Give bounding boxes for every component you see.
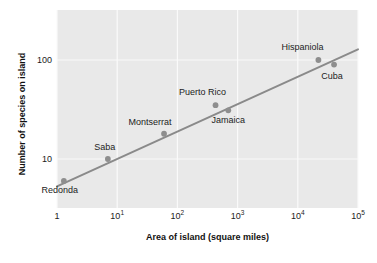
x-tick-exponent: 3 — [241, 209, 245, 216]
point-label-jamaica: Jamaica — [212, 115, 246, 125]
x-tick-base: 1 — [54, 211, 59, 221]
point-label-puerto-rico: Puerto Rico — [179, 87, 226, 97]
trend-line-segment — [57, 49, 358, 186]
x-tick-label-10: 101 — [110, 211, 124, 221]
x-tick-exponent: 2 — [181, 209, 185, 216]
x-tick-exponent: 1 — [120, 209, 124, 216]
x-tick-base: 10 — [231, 211, 241, 221]
data-point-montserrat — [161, 131, 167, 137]
x-tick-exponent: 4 — [301, 209, 305, 216]
plot-area: RedondaSabaMontserratPuerto RicoJamaicaH… — [57, 10, 358, 208]
data-point-puerto-rico — [213, 102, 219, 108]
x-tick-base: 10 — [171, 211, 181, 221]
x-tick-base: 10 — [110, 211, 120, 221]
point-label-saba: Saba — [94, 142, 115, 152]
point-label-montserrat: Montserrat — [129, 117, 172, 127]
x-tick-label-100000: 105 — [351, 211, 365, 221]
chart-canvas — [57, 10, 358, 208]
x-tick-label-100: 102 — [171, 211, 185, 221]
x-axis-title: Area of island (square miles) — [57, 232, 358, 242]
point-label-hispaniola: Hispaniola — [281, 42, 323, 52]
x-tick-label-10000: 104 — [291, 211, 305, 221]
point-label-redonda: Redonda — [42, 185, 79, 195]
chart-screenshot: RedondaSabaMontserratPuerto RicoJamaicaH… — [0, 0, 377, 263]
data-point-redonda — [61, 178, 67, 184]
x-tick-label-1000: 103 — [231, 211, 245, 221]
trend-line — [57, 49, 358, 186]
y-axis-title: Number of species on island — [17, 34, 27, 194]
data-point-cuba — [331, 62, 337, 68]
x-tick-base: 10 — [291, 211, 301, 221]
x-tick-label-1: 1 — [54, 211, 59, 221]
x-tick-base: 10 — [351, 211, 361, 221]
data-point-hispaniola — [316, 57, 322, 63]
vertical-gridlines — [57, 10, 358, 208]
data-point-jamaica — [225, 107, 231, 113]
point-label-cuba: Cuba — [321, 71, 343, 81]
x-tick-exponent: 5 — [361, 209, 365, 216]
data-point-saba — [105, 156, 111, 162]
